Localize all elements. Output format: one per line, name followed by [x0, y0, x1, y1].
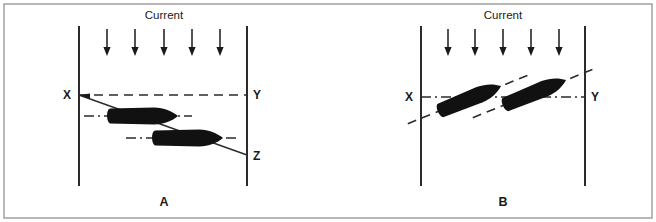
current-arrow	[131, 29, 138, 56]
figure-root: Current	[0, 0, 656, 222]
current-arrow	[103, 29, 110, 56]
panel-b-vessel-2-hull	[500, 72, 569, 113]
current-arrow	[444, 29, 451, 56]
current-arrow	[471, 29, 478, 56]
figure-border	[4, 4, 652, 218]
panel-b: Current	[405, 9, 599, 209]
panel-a: Current	[63, 9, 261, 209]
current-arrow	[216, 29, 223, 56]
panel-a-actual-track-xz	[79, 95, 247, 155]
current-arrow	[499, 29, 506, 56]
panel-b-vessel-1-hull	[435, 78, 504, 119]
panel-b-current-label: Current	[484, 9, 523, 21]
panel-a-current-label: Current	[145, 9, 184, 21]
panel-a-caption: A	[159, 195, 168, 209]
panel-b-label-y: Y	[591, 90, 599, 104]
panel-a-vessel-2-hull	[152, 129, 223, 146]
panel-b-caption: B	[498, 195, 507, 209]
figure-canvas: Current	[0, 0, 656, 222]
panel-a-current-arrows	[103, 29, 223, 56]
current-arrow	[188, 29, 195, 56]
panel-a-vessel-1	[84, 107, 192, 124]
current-arrow	[555, 29, 562, 56]
panel-b-current-arrows	[444, 29, 562, 56]
current-arrow	[527, 29, 534, 56]
current-arrow	[160, 29, 167, 56]
panel-a-vessel-1-hull	[107, 107, 178, 124]
panel-a-label-z: Z	[253, 149, 260, 163]
panel-a-label-x: X	[63, 88, 71, 102]
panel-a-vessel-2	[126, 129, 236, 146]
panel-b-label-x: X	[405, 90, 413, 104]
panel-a-label-y: Y	[253, 88, 261, 102]
